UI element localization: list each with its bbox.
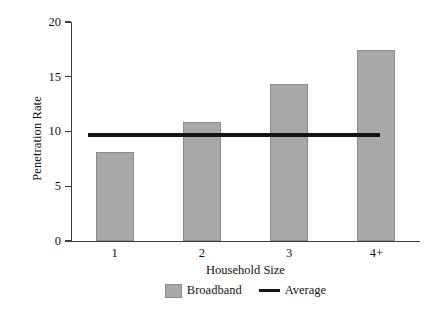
y-axis-tick-label: 10	[49, 124, 62, 139]
legend-label-broadband: Broadband	[187, 283, 242, 298]
y-axis-tick: 5	[65, 186, 71, 187]
y-axis-tick-label: 0	[55, 233, 61, 248]
y-axis-tick-label: 15	[49, 69, 62, 84]
legend-label-average: Average	[285, 283, 326, 298]
y-axis-tick: 20	[65, 21, 71, 22]
bar	[183, 122, 221, 241]
average-line	[88, 133, 381, 137]
y-axis-line	[71, 22, 72, 241]
chart-legend: Broadband Average	[71, 283, 420, 298]
y-axis-tick-label: 20	[49, 15, 62, 30]
bar	[270, 84, 308, 241]
bar-chart-figure: Penetration Rate 05101520 1234+ Househol…	[0, 0, 436, 317]
x-axis-title: Household Size	[71, 263, 420, 278]
x-axis-line	[71, 241, 420, 242]
legend-entry-broadband: Broadband	[165, 283, 242, 298]
y-axis-tick-label: 5	[55, 179, 61, 194]
bar	[357, 50, 395, 241]
legend-swatch-average-icon	[259, 289, 280, 292]
legend-swatch-broadband-icon	[165, 284, 182, 298]
y-axis-tick: 15	[65, 76, 71, 77]
x-axis-tick-label: 3	[286, 246, 292, 261]
x-axis-tick-label: 1	[112, 246, 118, 261]
y-axis-tick: 10	[65, 131, 71, 132]
bar	[96, 152, 134, 241]
y-axis-title: Penetration Rate	[30, 39, 45, 239]
x-axis-tick-label: 2	[199, 246, 205, 261]
legend-entry-average: Average	[259, 283, 326, 298]
plot-area: 05101520 1234+	[71, 22, 420, 241]
x-axis-tick-label: 4+	[370, 246, 383, 261]
y-axis-tick: 0	[65, 240, 71, 241]
